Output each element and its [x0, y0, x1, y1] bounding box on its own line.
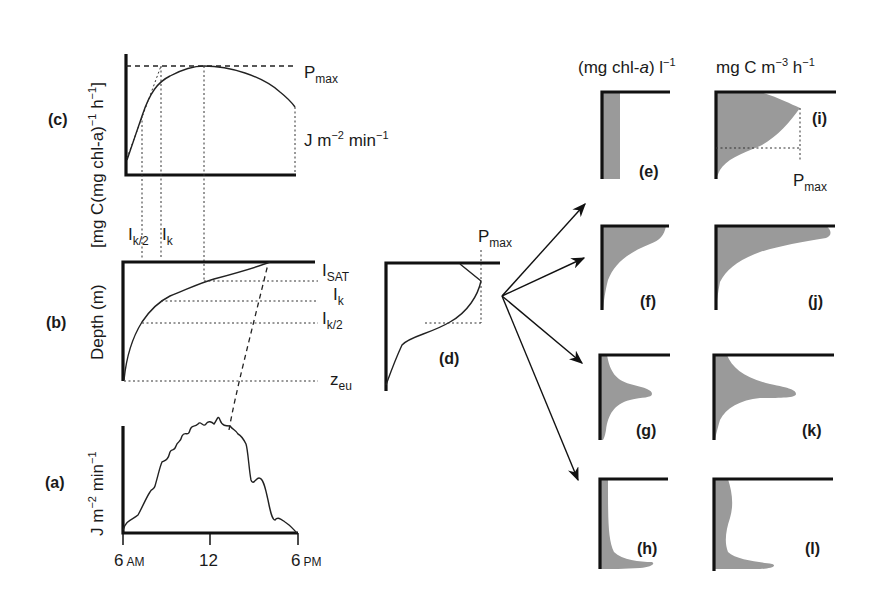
panel-i: (i) Pmax: [716, 92, 836, 194]
panel-a: (a) J m−2 min−1 6AM 12 6PM: [45, 417, 321, 570]
panel-l: (l): [714, 479, 833, 571]
irradiance-curve: [123, 417, 297, 533]
panel-a-ylabel: J m−2 min−1: [86, 451, 107, 536]
panel-h: (h): [600, 479, 668, 569]
chl-profile-e: [602, 92, 620, 179]
tick-label-12: 12: [199, 551, 218, 570]
production-profile-i: [716, 92, 800, 179]
arrow-to-e: [502, 204, 585, 296]
panel-b-tag: (b): [46, 314, 66, 331]
panel-a-tag: (a): [45, 474, 65, 491]
chl-column-header: (mg chl-a) l−1: [578, 56, 676, 77]
light-attenuation-curve: [124, 262, 270, 380]
panel-c-tag: (c): [48, 111, 68, 128]
panel-d-axes: [386, 263, 500, 391]
pi-curve: [127, 66, 295, 160]
ik-label: Ik: [333, 285, 345, 308]
phytoplankton-production-diagram: (c) [mg C(mg chl-a)−1 h−1] Pmax J m−2 mi…: [0, 0, 876, 606]
panel-f-tag: (f): [640, 293, 656, 310]
production-profile-l: [714, 479, 774, 569]
isat-label: ISAT: [322, 261, 350, 284]
arrow-to-g: [502, 296, 582, 363]
production-profile: [386, 264, 481, 385]
tick-label-6am: 6AM: [114, 551, 144, 570]
scenario-arrows: [502, 204, 585, 480]
panel-h-tag: (h): [637, 540, 657, 557]
panel-g: (g): [600, 355, 670, 440]
zeu-label: zeu: [330, 370, 352, 393]
ik2-top-label: Ik/2: [128, 225, 149, 248]
tick-label-6pm: 6PM: [291, 551, 321, 570]
panel-e-tag: (e): [639, 163, 659, 180]
panel-f: (f): [602, 226, 669, 310]
production-profile-k: [714, 355, 796, 440]
panel-g-tag: (g): [636, 422, 656, 439]
panel-d-tag: (d): [439, 350, 459, 367]
production-column-header: mg C m−3 h−1: [716, 56, 815, 77]
panel-j-tag: (j): [808, 293, 823, 310]
pmax-label: Pmax: [304, 63, 338, 86]
pmax-label-d: Pmax: [478, 227, 512, 250]
panel-b-axes: [123, 262, 315, 381]
arrow-to-h: [502, 296, 578, 480]
panel-c: (c) [mg C(mg chl-a)−1 h−1] Pmax J m−2 mi…: [48, 54, 389, 282]
panel-l-tag: (l): [805, 540, 820, 557]
panel-i-tag: (i): [812, 110, 827, 127]
panel-c-ylabel: [mg C(mg chl-a)−1 h−1]: [86, 82, 107, 248]
panel-k: (k): [714, 355, 834, 440]
depth-axis-label: Depth (m): [88, 284, 107, 360]
pmax-label-i: Pmax: [793, 171, 827, 194]
panel-j: (j): [716, 226, 835, 310]
ik-top-label: Ik: [162, 225, 174, 248]
chl-profile-f: [602, 226, 666, 310]
panel-b: (b) Depth (m) ISAT Ik Ik/2 zeu: [46, 261, 352, 430]
panel-c-axes: [126, 54, 296, 175]
arrow-to-f: [502, 258, 584, 296]
irradiance-unit-label: J m−2 min−1: [304, 129, 389, 150]
panel-k-tag: (k): [802, 422, 822, 439]
noon-connector: [229, 264, 268, 430]
panel-d: Pmax (d): [386, 227, 512, 391]
ik2-label: Ik/2: [322, 309, 343, 332]
panel-e: (e): [602, 92, 670, 180]
